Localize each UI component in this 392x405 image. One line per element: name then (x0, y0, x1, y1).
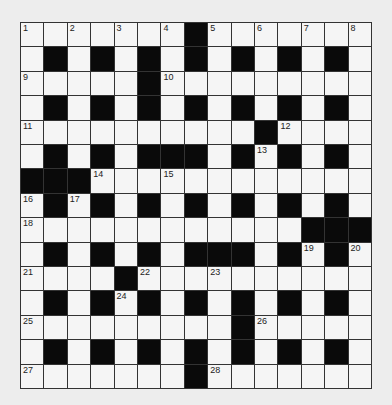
grid-cell[interactable]: 1 (21, 23, 43, 46)
grid-cell[interactable] (302, 47, 324, 70)
grid-cell[interactable] (185, 267, 207, 290)
grid-cell[interactable] (325, 169, 347, 192)
grid-cell[interactable] (68, 291, 90, 314)
grid-cell[interactable] (232, 365, 254, 388)
grid-cell[interactable] (185, 121, 207, 144)
grid-cell[interactable] (68, 96, 90, 119)
grid-cell[interactable] (349, 340, 371, 363)
grid-cell[interactable] (21, 291, 43, 314)
grid-cell[interactable] (255, 243, 277, 266)
grid-cell[interactable] (91, 267, 113, 290)
grid-cell[interactable]: 15 (161, 169, 183, 192)
grid-cell[interactable] (68, 243, 90, 266)
grid-cell[interactable] (325, 316, 347, 339)
grid-cell[interactable] (349, 96, 371, 119)
grid-cell[interactable]: 14 (91, 169, 113, 192)
grid-cell[interactable] (232, 121, 254, 144)
grid-cell[interactable] (115, 194, 137, 217)
grid-cell[interactable] (302, 340, 324, 363)
grid-cell[interactable]: 7 (302, 23, 324, 46)
grid-cell[interactable] (68, 145, 90, 168)
grid-cell[interactable] (44, 218, 66, 241)
grid-cell[interactable] (302, 365, 324, 388)
grid-cell[interactable] (68, 47, 90, 70)
grid-cell[interactable] (255, 291, 277, 314)
grid-cell[interactable] (44, 72, 66, 95)
grid-cell[interactable] (325, 267, 347, 290)
grid-cell[interactable] (115, 218, 137, 241)
grid-cell[interactable]: 22 (138, 267, 160, 290)
grid-cell[interactable]: 26 (255, 316, 277, 339)
grid-cell[interactable] (185, 316, 207, 339)
grid-cell[interactable] (349, 169, 371, 192)
grid-cell[interactable] (161, 121, 183, 144)
grid-cell[interactable] (208, 194, 230, 217)
grid-cell[interactable] (91, 72, 113, 95)
grid-cell[interactable]: 23 (208, 267, 230, 290)
grid-cell[interactable] (255, 47, 277, 70)
grid-cell[interactable] (349, 291, 371, 314)
grid-cell[interactable] (349, 316, 371, 339)
grid-cell[interactable] (325, 23, 347, 46)
grid-cell[interactable] (115, 340, 137, 363)
grid-cell[interactable] (208, 47, 230, 70)
grid-cell[interactable] (91, 316, 113, 339)
grid-cell[interactable] (325, 72, 347, 95)
grid-cell[interactable] (91, 23, 113, 46)
grid-cell[interactable] (115, 145, 137, 168)
grid-cell[interactable] (349, 145, 371, 168)
grid-cell[interactable] (68, 267, 90, 290)
grid-cell[interactable] (68, 218, 90, 241)
grid-cell[interactable] (161, 243, 183, 266)
grid-cell[interactable] (115, 72, 137, 95)
grid-cell[interactable] (255, 194, 277, 217)
grid-cell[interactable]: 4 (161, 23, 183, 46)
grid-cell[interactable]: 17 (68, 194, 90, 217)
grid-cell[interactable]: 6 (255, 23, 277, 46)
grid-cell[interactable]: 16 (21, 194, 43, 217)
grid-cell[interactable]: 12 (278, 121, 300, 144)
grid-cell[interactable] (91, 218, 113, 241)
grid-cell[interactable] (208, 291, 230, 314)
grid-cell[interactable] (278, 316, 300, 339)
grid-cell[interactable] (91, 365, 113, 388)
grid-cell[interactable] (21, 47, 43, 70)
grid-cell[interactable] (349, 72, 371, 95)
grid-cell[interactable] (138, 23, 160, 46)
grid-cell[interactable] (208, 96, 230, 119)
grid-cell[interactable] (325, 121, 347, 144)
grid-cell[interactable] (115, 47, 137, 70)
grid-cell[interactable] (68, 121, 90, 144)
grid-cell[interactable] (349, 47, 371, 70)
grid-cell[interactable]: 25 (21, 316, 43, 339)
grid-cell[interactable] (255, 218, 277, 241)
grid-cell[interactable] (302, 291, 324, 314)
grid-cell[interactable] (161, 194, 183, 217)
grid-cell[interactable] (232, 267, 254, 290)
grid-cell[interactable] (138, 365, 160, 388)
grid-cell[interactable] (44, 365, 66, 388)
grid-cell[interactable] (115, 121, 137, 144)
grid-cell[interactable] (138, 121, 160, 144)
grid-cell[interactable] (44, 316, 66, 339)
grid-cell[interactable] (255, 72, 277, 95)
grid-cell[interactable] (44, 267, 66, 290)
grid-cell[interactable] (44, 23, 66, 46)
grid-cell[interactable] (44, 121, 66, 144)
grid-cell[interactable] (208, 121, 230, 144)
grid-cell[interactable] (161, 291, 183, 314)
grid-cell[interactable] (255, 365, 277, 388)
grid-cell[interactable]: 8 (349, 23, 371, 46)
grid-cell[interactable]: 11 (21, 121, 43, 144)
grid-cell[interactable] (208, 316, 230, 339)
grid-cell[interactable] (302, 194, 324, 217)
grid-cell[interactable] (161, 47, 183, 70)
grid-cell[interactable] (255, 340, 277, 363)
grid-cell[interactable] (161, 267, 183, 290)
grid-cell[interactable] (115, 316, 137, 339)
grid-cell[interactable] (208, 340, 230, 363)
grid-cell[interactable] (161, 218, 183, 241)
grid-cell[interactable]: 2 (68, 23, 90, 46)
grid-cell[interactable] (302, 145, 324, 168)
grid-cell[interactable]: 5 (208, 23, 230, 46)
